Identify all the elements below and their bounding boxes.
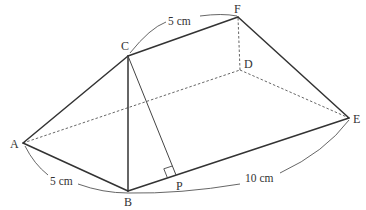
triangular-prism-diagram: A B C D E F P 5 cm 5 cm 10 cm	[0, 0, 366, 210]
dimension-arc-cf-right	[200, 15, 237, 17]
vertex-label-e: E	[353, 112, 360, 126]
vertex-label-c: C	[121, 39, 129, 53]
vertex-label-p: P	[176, 179, 183, 193]
edge-ad	[23, 70, 240, 143]
dimension-arc-ab	[25, 146, 48, 175]
edge-be	[128, 118, 349, 191]
dimension-label-cf: 5 cm	[168, 15, 191, 27]
vertex-label-f: F	[234, 2, 241, 16]
dimension-arc-be-right	[280, 120, 349, 173]
edge-de	[240, 70, 349, 118]
dimension-label-be: 10 cm	[245, 172, 273, 184]
edge-df	[238, 17, 240, 70]
edge-fe	[238, 17, 349, 118]
edge-ac	[23, 56, 128, 143]
vertex-label-b: B	[124, 195, 132, 209]
dimension-label-ab: 5 cm	[50, 175, 73, 187]
vertex-label-d: D	[244, 57, 253, 71]
vertex-label-a: A	[10, 137, 19, 151]
segment-cp	[128, 56, 176, 175]
dimension-arc-ab-right	[78, 184, 128, 193]
